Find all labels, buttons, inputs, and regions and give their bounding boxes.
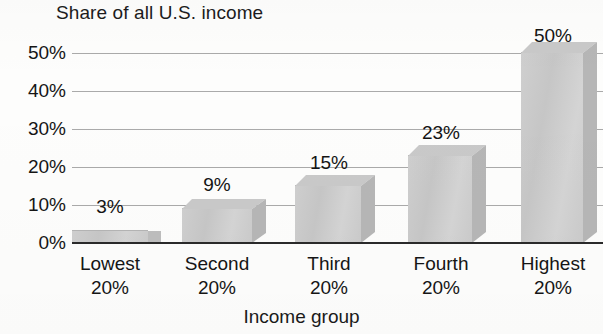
bar-extrusion [408, 145, 486, 243]
y-tick-label-50: 50% [2, 42, 66, 64]
bar-second-20[interactable] [182, 209, 252, 243]
x-tick-line2: 20% [307, 276, 350, 300]
x-axis-title: Income group [0, 306, 603, 328]
x-tick-label-fourth-20: Fourth 20% [414, 252, 469, 300]
chart-page: Share of all U.S. income 50% 40% 30% 20%… [0, 0, 603, 334]
x-tick-label-second-20: Second 20% [185, 252, 249, 300]
bar-extrusion [182, 199, 266, 243]
x-tick-line2: 20% [80, 276, 140, 300]
x-tick-line1: Fourth [414, 252, 469, 276]
bar-extrusion [521, 42, 597, 243]
y-tick-label-20: 20% [2, 156, 66, 178]
value-label-third-20: 15% [310, 152, 348, 174]
value-label-fourth-20: 23% [422, 122, 460, 144]
value-label-highest-20: 50% [534, 25, 572, 47]
x-tick-line1: Second [185, 252, 249, 276]
x-axis-line [72, 242, 603, 244]
x-tick-line1: Third [307, 252, 350, 276]
bar-highest-20[interactable] [521, 53, 583, 243]
x-tick-line2: 20% [521, 276, 585, 300]
bar-fourth-20[interactable] [408, 156, 472, 243]
y-axis: 50% 40% 30% 20% 10% 0% [0, 0, 66, 334]
x-tick-line2: 20% [185, 276, 249, 300]
chart-title: Share of all U.S. income [56, 2, 263, 24]
bar-extrusion [295, 175, 375, 243]
value-label-lowest-20: 3% [96, 196, 123, 218]
x-tick-label-third-20: Third 20% [307, 252, 350, 300]
bar-third-20[interactable] [295, 186, 361, 243]
x-tick-line1: Highest [521, 252, 585, 276]
y-tick-label-0: 0% [2, 232, 66, 254]
x-tick-label-highest-20: Highest 20% [521, 252, 585, 300]
x-tick-label-lowest-20: Lowest 20% [80, 252, 140, 300]
x-tick-line1: Lowest [80, 252, 140, 276]
value-label-second-20: 9% [203, 174, 230, 196]
y-tick-label-10: 10% [2, 194, 66, 216]
plot-area [72, 53, 603, 243]
y-tick-label-40: 40% [2, 80, 66, 102]
x-tick-line2: 20% [414, 276, 469, 300]
y-tick-label-30: 30% [2, 118, 66, 140]
